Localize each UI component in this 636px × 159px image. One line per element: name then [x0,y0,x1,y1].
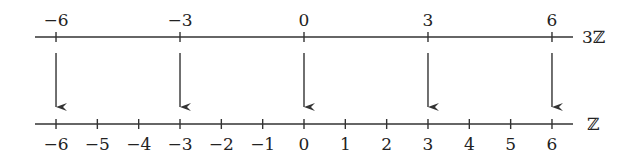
top-tick-label: −3 [167,12,192,29]
bottom-tick-label: −2 [209,136,234,153]
bottom-tick-label: −4 [126,136,151,153]
bottom-tick-label: −6 [43,136,68,153]
top-tick-label: 0 [299,12,310,29]
top-tick-label: 6 [547,12,558,29]
bottom-tick-label: 0 [299,136,310,153]
bottom-tick-label: 2 [381,136,392,153]
set-label-z: ℤ [587,116,599,133]
bottom-tick-label: −5 [85,136,110,153]
bottom-tick-label: 5 [505,136,516,153]
inclusion-arrows [56,53,552,107]
bottom-tick-label: 4 [464,136,475,153]
top-tick-label: 3 [423,12,434,29]
bottom-tick-label: 3 [423,136,434,153]
bottom-tick-label: −3 [167,136,192,153]
bottom-tick-label: 6 [547,136,558,153]
top-tick-label: −6 [43,12,68,29]
bottom-tick-label: −1 [250,136,275,153]
bottom-tick-label: 1 [340,136,351,153]
set-label-3z: 3ℤ [582,29,605,46]
